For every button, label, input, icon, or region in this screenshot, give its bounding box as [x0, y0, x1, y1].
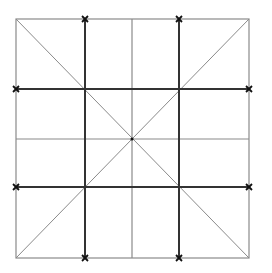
grid-diagram	[0, 0, 272, 273]
center-point	[131, 138, 134, 141]
